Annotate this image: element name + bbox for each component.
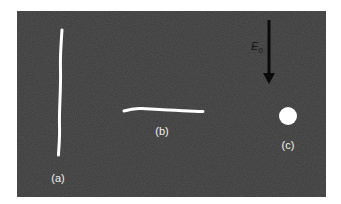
field-label-subscript: 0 (259, 46, 264, 55)
diagram-svg: (a) (b) (c) E 0 (0, 0, 341, 204)
label-a: (a) (51, 172, 64, 184)
label-b: (b) (155, 125, 168, 137)
figure-canvas: (a) (b) (c) E 0 (0, 0, 341, 204)
panel-texture (17, 11, 326, 197)
object-c-dot (279, 107, 297, 125)
label-c: (c) (282, 139, 295, 151)
